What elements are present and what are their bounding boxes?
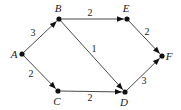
node-f bbox=[159, 53, 164, 58]
node-d bbox=[122, 89, 127, 94]
node-label-c: C bbox=[53, 95, 61, 107]
edge-weight-d-f: 3 bbox=[142, 75, 147, 86]
edge-weight-a-c: 2 bbox=[29, 68, 34, 79]
node-e bbox=[124, 16, 129, 21]
node-label-e: E bbox=[122, 2, 130, 14]
node-label-a: A bbox=[10, 48, 18, 60]
node-c bbox=[55, 88, 60, 93]
edges: 3221223 bbox=[24, 7, 160, 103]
node-label-f: F bbox=[165, 50, 173, 62]
edge-weight-a-b: 3 bbox=[31, 27, 36, 38]
node-label-b: B bbox=[55, 2, 62, 14]
edge-weight-e-f: 2 bbox=[145, 26, 150, 37]
node-label-d: D bbox=[119, 96, 128, 108]
node-b bbox=[56, 16, 61, 21]
node-a bbox=[19, 51, 24, 56]
edge-a-b bbox=[24, 21, 57, 52]
edge-weight-c-d: 2 bbox=[88, 92, 93, 103]
weighted-digraph: 3221223 ABCDEF bbox=[0, 0, 181, 110]
edge-b-d bbox=[61, 21, 123, 90]
edge-weight-b-e: 2 bbox=[88, 7, 93, 18]
edge-weight-b-d: 1 bbox=[92, 43, 97, 54]
